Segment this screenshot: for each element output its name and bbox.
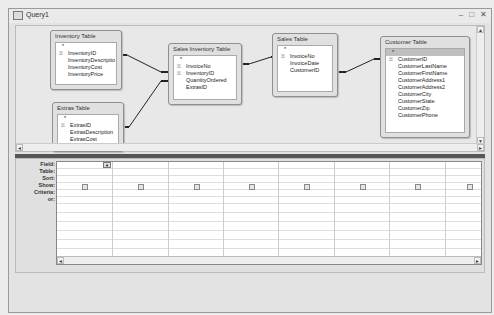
- title-bar: Query1 – □ ✕: [9, 9, 491, 23]
- field-customercity[interactable]: CustomerCity: [386, 91, 464, 98]
- scroll-left-icon[interactable]: ◄: [57, 257, 64, 264]
- grid-column-2[interactable]: [113, 162, 169, 258]
- key-icon: ⚿: [389, 56, 393, 63]
- scroll-up-icon[interactable]: ▲: [477, 26, 484, 33]
- table-title: Sales Table: [273, 34, 337, 44]
- grid-column-1[interactable]: ▼: [57, 162, 113, 258]
- sales-table[interactable]: Sales Table * ⚿InvoiceNo InvoiceDate Cus…: [272, 33, 338, 97]
- show-checkbox[interactable]: [138, 184, 144, 190]
- key-icon: ⚿: [177, 70, 181, 77]
- show-checkbox[interactable]: [467, 184, 473, 190]
- field-all[interactable]: *: [386, 49, 464, 56]
- show-checkbox[interactable]: [304, 184, 310, 190]
- restore-button[interactable]: □: [469, 10, 474, 19]
- scroll-right-icon[interactable]: ►: [474, 257, 481, 264]
- field-extrascost[interactable]: ExtrasCost: [58, 136, 118, 143]
- query-icon: [13, 11, 23, 20]
- key-icon: ⚿: [281, 53, 285, 60]
- field-invoiceno[interactable]: ⚿InvoiceNo: [278, 53, 332, 60]
- key-icon: ⚿: [177, 63, 181, 70]
- sales-inventory-table[interactable]: Sales Inventory Table * ⚿InvoiceNo ⚿Inve…: [168, 43, 242, 105]
- field-all[interactable]: *: [278, 46, 332, 53]
- grid-column-6[interactable]: [335, 162, 390, 258]
- minimize-button[interactable]: –: [459, 10, 463, 19]
- field-inventorycost[interactable]: InventoryCost: [56, 64, 116, 71]
- field-invoiceno[interactable]: ⚿InvoiceNo: [174, 63, 236, 70]
- table-title: Customer Table: [381, 37, 469, 47]
- window-title: Query1: [26, 11, 49, 18]
- field-customerzip[interactable]: CustomerZip: [386, 105, 464, 112]
- field-customerstate[interactable]: CustomerState: [386, 98, 464, 105]
- row-label-sort: Sort:: [16, 175, 56, 182]
- table-title: Extras Table: [53, 103, 123, 113]
- field-inventoryprice[interactable]: InventoryPrice: [56, 71, 116, 78]
- field-all[interactable]: *: [174, 56, 236, 63]
- table-title: Sales Inventory Table: [169, 44, 241, 54]
- table-title: Inventory Table: [51, 31, 121, 41]
- grid-column-7[interactable]: [390, 162, 446, 258]
- row-label-field: Field:: [16, 161, 56, 168]
- grid-column-3[interactable]: [169, 162, 224, 258]
- grid-column-4[interactable]: [224, 162, 279, 258]
- field-all[interactable]: *: [58, 115, 118, 122]
- key-icon: ⚿: [59, 50, 63, 57]
- close-button[interactable]: ✕: [480, 10, 487, 19]
- show-checkbox[interactable]: [194, 184, 200, 190]
- inventory-table[interactable]: Inventory Table * ⚿InventoryID Inventory…: [50, 30, 122, 90]
- field-invoicedate[interactable]: InvoiceDate: [278, 60, 332, 67]
- field-customerphone[interactable]: CustomerPhone: [386, 112, 464, 119]
- field-all[interactable]: *: [56, 43, 116, 50]
- key-icon: ⚿: [61, 122, 65, 129]
- grid-column-5[interactable]: [279, 162, 335, 258]
- field-customeraddress1[interactable]: CustomerAddress1: [386, 77, 464, 84]
- scroll-right-icon[interactable]: ►: [477, 144, 484, 151]
- field-inventoryid[interactable]: ⚿InventoryID: [174, 70, 236, 77]
- field-customerlastname[interactable]: CustomerLastName: [386, 63, 464, 70]
- row-label-show: Show:: [16, 182, 56, 189]
- show-checkbox[interactable]: [360, 184, 366, 190]
- field-extrasid[interactable]: ExtrasID: [174, 84, 236, 91]
- field-inventorydescription[interactable]: InventoryDescriptio: [56, 57, 116, 64]
- field-dropdown-icon[interactable]: ▼: [103, 162, 111, 168]
- scroll-left-icon[interactable]: ◄: [16, 144, 23, 151]
- query-design-grid[interactable]: ▼ ◄ ►: [56, 161, 482, 265]
- field-customerid[interactable]: CustomerID: [278, 67, 332, 74]
- show-checkbox[interactable]: [82, 184, 88, 190]
- show-checkbox[interactable]: [415, 184, 421, 190]
- query-grid-pane: Field: Table: Sort: Show: Criteria: or: …: [15, 158, 485, 273]
- grid-column-8[interactable]: [446, 162, 482, 258]
- row-label-or: or:: [16, 196, 56, 203]
- field-extrasdescription[interactable]: ExtrasDescription: [58, 129, 118, 136]
- row-label-table: Table:: [16, 168, 56, 175]
- show-checkbox[interactable]: [249, 184, 255, 190]
- field-customerid[interactable]: ⚿CustomerID: [386, 56, 464, 63]
- field-extrasid[interactable]: ⚿ExtrasID: [58, 122, 118, 129]
- row-label-criteria: Criteria:: [16, 189, 56, 196]
- table-design-pane: Inventory Table * ⚿InventoryID Inventory…: [15, 25, 485, 152]
- design-vertical-scrollbar[interactable]: ▲ ▼: [476, 26, 484, 144]
- grid-horizontal-scrollbar[interactable]: ◄ ►: [57, 256, 481, 264]
- field-inventoryid[interactable]: ⚿InventoryID: [56, 50, 116, 57]
- field-customeraddress2[interactable]: CustomerAddress2: [386, 84, 464, 91]
- customer-table[interactable]: Customer Table * ⚿CustomerID CustomerLas…: [380, 36, 470, 138]
- field-customerfirstname[interactable]: CustomerFirstName: [386, 70, 464, 77]
- design-horizontal-scrollbar[interactable]: ◄ ►: [16, 143, 484, 151]
- query-window: Query1 – □ ✕ Inventor: [8, 8, 492, 313]
- field-quantityordered[interactable]: QuantityOrdered: [174, 77, 236, 84]
